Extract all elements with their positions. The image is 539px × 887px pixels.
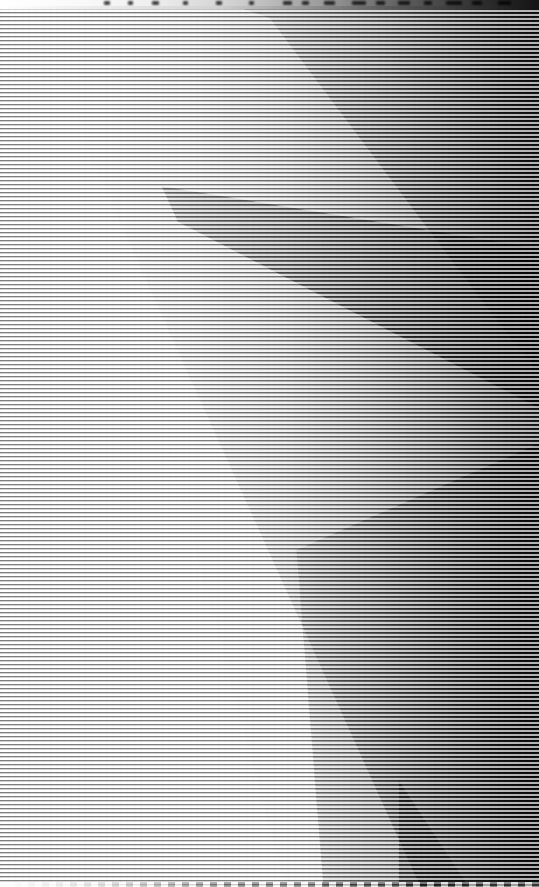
upper-right-dark-wedge-region: [0, 0, 539, 887]
titlebar-artifact-glyph: [472, 1, 482, 5]
compression-noise-layer: [0, 0, 539, 887]
titlebar-artifact-glyph: [183, 1, 188, 5]
titlebar-artifact-glyph: [352, 1, 366, 5]
luminance-gradient-layer: [0, 0, 539, 887]
titlebar-artifact-glyph: [104, 1, 110, 5]
titlebar-artifact-glyph: [128, 1, 133, 5]
titlebar-artifact-glyph: [446, 1, 462, 5]
titlebar-artifact-glyph: [249, 1, 254, 5]
bottom-dark-triangle-region: [0, 0, 539, 887]
titlebar-artifact-glyph: [216, 1, 222, 5]
titlebar-artifact-glyph: [283, 1, 292, 5]
central-light-wedge-region: [0, 0, 539, 887]
titlebar-artifact-glyph: [398, 1, 410, 5]
lower-right-dark-gradient-region: [0, 0, 539, 887]
titlebar-artifact-glyph: [424, 1, 432, 5]
scanline-highlight-layer: [0, 0, 539, 887]
light-wedge-left-region: [0, 0, 539, 887]
mid-diagonal-dark-band-region: [0, 0, 539, 887]
titlebar-artifact-glyph: [324, 1, 335, 5]
scanline-corruption-layer: [0, 0, 539, 887]
titlebar-artifact-glyph: [152, 1, 159, 5]
titlebar-artifact-glyph: [302, 1, 309, 5]
bottom-dashed-edge-fade: [0, 882, 539, 887]
titlebar-artifact-glyph: [376, 1, 385, 5]
titlebar-artifact-glyph: [498, 1, 511, 5]
titlebar-bottom-rule: [0, 6, 539, 9]
corrupted-screenshot-canvas: [0, 0, 539, 887]
